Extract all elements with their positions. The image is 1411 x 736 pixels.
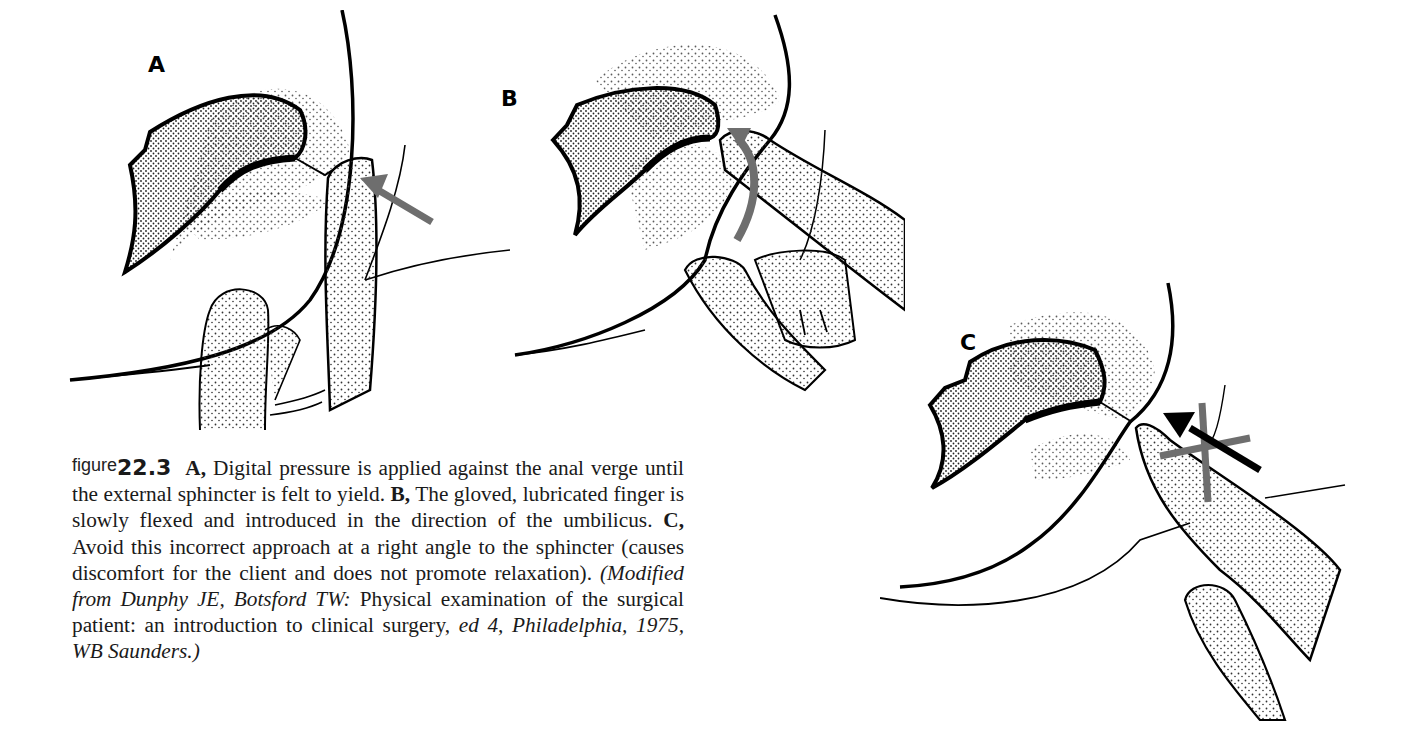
panel-b: B	[505, 10, 905, 400]
caption-a-label: A,	[185, 456, 206, 480]
panel-label-b: B	[501, 86, 518, 111]
panel-label-a: A	[148, 52, 165, 77]
illustration-panel-a	[60, 10, 510, 440]
figure-prefix: figure	[72, 455, 117, 475]
panel-label-c: C	[960, 330, 976, 355]
caption-b-label: B,	[391, 482, 411, 506]
figure-caption: figure22.3A, Digital pressure is applied…	[72, 452, 684, 665]
illustration-panel-b	[505, 10, 905, 400]
caption-c-label: C,	[663, 508, 684, 532]
panel-c: C	[880, 280, 1360, 730]
caption-c-text: Avoid this incorrect approach at a right…	[72, 535, 684, 585]
illustration-panel-c	[880, 280, 1360, 730]
panel-a: A	[60, 10, 510, 440]
figure-number: 22.3	[117, 455, 171, 480]
